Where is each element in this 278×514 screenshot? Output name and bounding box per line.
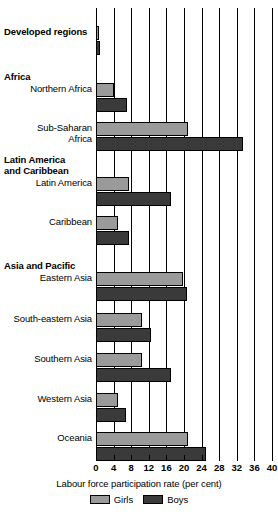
- plot-area: [96, 8, 272, 455]
- bar-boys-latin-america: [96, 192, 171, 206]
- gridline-8: [131, 8, 132, 455]
- bar-boys-caribbean: [96, 231, 129, 245]
- bar-girls-sub-saharan-africa: [96, 122, 188, 136]
- legend-item-girls: Girls: [90, 494, 134, 505]
- tick-mark-24: [202, 455, 203, 461]
- tick-label-24: 24: [196, 462, 207, 473]
- tick-label-8: 8: [129, 462, 134, 473]
- tick-mark-32: [237, 455, 238, 461]
- tick-mark-8: [131, 455, 132, 461]
- tick-label-20: 20: [179, 462, 190, 473]
- tick-mark-0: [96, 455, 97, 461]
- bar-boys-eastern-asia: [96, 287, 187, 301]
- tick-mark-12: [149, 455, 150, 461]
- category-label-sub-saharan-africa-line2: Africa: [0, 133, 92, 144]
- x-axis-title: Labour force participation rate (per cen…: [0, 478, 278, 489]
- tick-label-36: 36: [249, 462, 260, 473]
- category-label-eastern-asia: Eastern Asia: [0, 272, 92, 283]
- tick-mark-20: [184, 455, 185, 461]
- tick-label-40: 40: [267, 462, 278, 473]
- tick-mark-28: [219, 455, 220, 461]
- category-label-sub-saharan-africa-line1: Sub-Saharan: [0, 122, 92, 133]
- bar-girls-latin-america: [96, 177, 129, 191]
- tick-label-32: 32: [232, 462, 243, 473]
- category-label-southern-asia: Southern Asia: [0, 353, 92, 364]
- gridline-32: [237, 8, 238, 455]
- bar-boys-sub-saharan-africa: [96, 137, 243, 151]
- bar-girls-oceania: [96, 432, 188, 446]
- legend-swatch-boys-icon: [143, 495, 163, 504]
- legend-label-boys: Boys: [167, 494, 188, 505]
- bar-boys-developed-regions: [96, 41, 100, 55]
- category-label-latin-america: Latin America: [0, 177, 92, 188]
- bar-girls-western-asia: [96, 393, 118, 407]
- tick-label-4: 4: [111, 462, 116, 473]
- x-axis-tick-labels: 0481216202428323640: [0, 462, 278, 476]
- category-label-western-asia: Western Asia: [0, 393, 92, 404]
- category-label-developed-regions: Developed regions: [4, 26, 92, 37]
- gridline-40: [272, 8, 273, 455]
- legend-swatch-girls-icon: [90, 495, 110, 504]
- chart-legend: Girls Boys: [0, 494, 278, 505]
- tick-mark-16: [166, 455, 167, 461]
- tick-mark-36: [254, 455, 255, 461]
- bar-girls-caribbean: [96, 216, 118, 230]
- bar-girls-developed-regions: [96, 26, 99, 40]
- bar-girls-eastern-asia: [96, 272, 183, 286]
- tick-label-12: 12: [144, 462, 155, 473]
- legend-label-girls: Girls: [114, 494, 134, 505]
- bar-girls-south-eastern-asia: [96, 313, 142, 327]
- tick-mark-40: [272, 455, 273, 461]
- bar-boys-southern-asia: [96, 368, 171, 382]
- category-label-column: Developed regions Africa Northern Africa…: [0, 8, 92, 455]
- bar-boys-northern-africa: [96, 98, 127, 112]
- category-label-oceania: Oceania: [0, 432, 92, 443]
- category-label-northern-africa: Northern Africa: [0, 83, 92, 94]
- chart-container: Developed regions Africa Northern Africa…: [0, 0, 278, 514]
- gridline-16: [166, 8, 167, 455]
- gridline-24: [202, 8, 203, 455]
- bar-boys-western-asia: [96, 408, 126, 422]
- group-heading-africa: Africa: [4, 71, 92, 82]
- category-label-caribbean: Caribbean: [0, 216, 92, 227]
- category-label-south-eastern-asia: South-eastern Asia: [0, 313, 92, 324]
- legend-item-boys: Boys: [143, 494, 188, 505]
- tick-label-16: 16: [161, 462, 172, 473]
- bar-girls-southern-asia: [96, 353, 142, 367]
- group-heading-latin-america-caribbean-line1: Latin America: [4, 154, 92, 165]
- gridline-28: [219, 8, 220, 455]
- group-heading-asia-and-pacific: Asia and Pacific: [4, 260, 92, 271]
- tick-label-28: 28: [214, 462, 225, 473]
- gridline-20: [184, 8, 185, 455]
- group-heading-latin-america-caribbean-line2: and Caribbean: [4, 165, 92, 176]
- tick-mark-4: [114, 455, 115, 461]
- gridline-12: [149, 8, 150, 455]
- tick-label-0: 0: [93, 462, 98, 473]
- gridline-36: [254, 8, 255, 455]
- bar-girls-northern-africa: [96, 83, 114, 97]
- bar-boys-south-eastern-asia: [96, 328, 151, 342]
